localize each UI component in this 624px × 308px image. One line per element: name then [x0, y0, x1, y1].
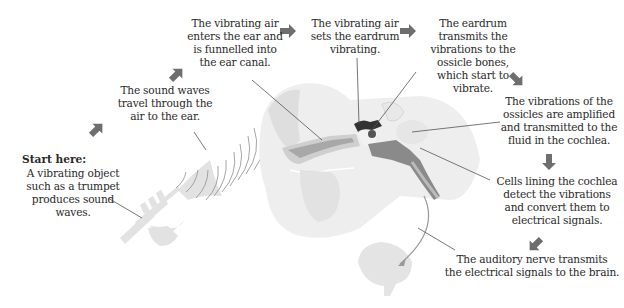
step-sound-waves: The sound waves travel through the air t… [110, 84, 220, 123]
step-ossicles: The eardrum transmits the vibrations to … [420, 17, 526, 95]
leader-auditory-nerve [418, 228, 455, 250]
brain-icon [358, 242, 412, 296]
trumpet-icon [120, 160, 222, 246]
step-trumpet: A vibrating object such as a trumpet pro… [20, 167, 126, 219]
step-cochlea-cells: Cells lining the cochlea detect the vibr… [490, 175, 624, 227]
step-eardrum: The vibrating air sets the eardrum vibra… [300, 17, 410, 56]
start-label: Start here: [22, 153, 86, 165]
hearing-diagram: Start here: A vibrating object such as a… [0, 0, 624, 308]
step-ear-canal: The vibrating air enters the ear and is … [180, 17, 290, 69]
sound-waves-icon [176, 124, 265, 200]
arrow-down-icon [542, 154, 556, 170]
step-auditory-nerve: The auditory nerve transmits the electri… [440, 253, 624, 279]
leader-sound-waves [194, 132, 206, 150]
step-cochlea-fluid: The vibrations of the ossicles are ampli… [495, 95, 623, 147]
arrow-up-right-icon [86, 119, 107, 140]
